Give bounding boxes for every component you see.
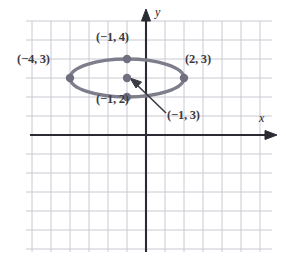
point-label-vertex-right: (2, 3) (185, 52, 211, 67)
point-label-center: (−1, 3) (167, 108, 200, 123)
graph-svg (0, 0, 286, 260)
point-label-vertex-left: (−4, 3) (17, 52, 50, 67)
x-axis-arrowhead (265, 131, 277, 140)
coordinate-plane-figure: (−1, 4) (−4, 3) (2, 3) (−1, 2) (−1, 3) y… (0, 0, 286, 260)
axes (30, 9, 277, 252)
grid-lines (26, 21, 272, 252)
point-center (123, 74, 131, 82)
y-axis-label: y (155, 5, 160, 20)
point-co-vertex-top (123, 55, 131, 63)
y-axis-arrowhead (142, 9, 151, 21)
x-axis-label: x (259, 111, 264, 126)
point-label-co-vertex-bottom: (−1, 2) (96, 92, 129, 107)
point-label-co-vertex-top: (−1, 4) (96, 30, 129, 45)
point-vertex-right (180, 74, 188, 82)
point-vertex-left (66, 74, 74, 82)
